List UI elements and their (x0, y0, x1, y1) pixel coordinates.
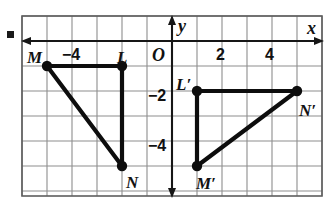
point-label-N-prime: N′ (299, 102, 316, 119)
point-label-M-prime: M′ (196, 175, 216, 192)
point-label-L-prime: L′ (176, 76, 191, 93)
coordinate-plane-svg (0, 0, 336, 206)
axis-label-x: x (307, 19, 316, 37)
point-label-M: M (27, 49, 42, 66)
coordinate-plane-figure: x y O −4 2 4 −2 −4 M L N L′ N′ M′ (0, 0, 336, 206)
x-tick-label-4: 4 (265, 47, 274, 63)
vertex-point (192, 161, 202, 171)
vertex-point (192, 86, 202, 96)
axis-label-y: y (178, 17, 186, 35)
vertex-point (292, 86, 302, 96)
vertex-point (117, 161, 127, 171)
point-label-N: N (126, 174, 138, 191)
y-tick-label-neg2: −2 (148, 88, 166, 104)
x-tick-label-2: 2 (216, 47, 225, 63)
vertex-point (42, 61, 52, 71)
origin-label: O (152, 46, 165, 64)
x-tick-label-neg4: −4 (62, 47, 80, 63)
point-label-L: L (117, 49, 127, 66)
y-tick-label-neg4: −4 (148, 138, 166, 154)
